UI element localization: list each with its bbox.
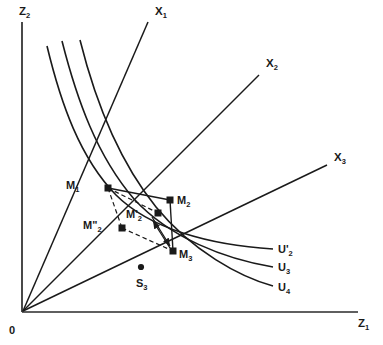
curve-label-u3: U3 — [278, 262, 290, 276]
origin-label: 0 — [9, 325, 15, 336]
figure-canvas: Z2 Z1 0 X1 X2 X3 U'2 U3 U4 M1 M2 M'2 M"2… — [0, 0, 383, 345]
x-axis-label: Z1 — [358, 318, 369, 332]
ray-label-x2: X2 — [266, 58, 278, 72]
point-label-s3: S3 — [136, 278, 148, 292]
curve-u2-prime — [47, 46, 273, 249]
marker-m2-prime — [155, 210, 162, 217]
curve-label-u4: U4 — [278, 282, 290, 296]
ray-label-x1: X1 — [155, 6, 167, 20]
point-label-m1: M1 — [66, 180, 79, 194]
connector-m1-m2 — [108, 188, 170, 200]
marker-m2-doubleprime — [119, 225, 126, 232]
y-axis-label: Z2 — [19, 6, 30, 20]
arrow-m2prime-m3-group — [152, 217, 170, 248]
marker-m3 — [170, 248, 177, 255]
curve-label-u2-prime: U'2 — [278, 244, 293, 258]
point-label-m2-doubleprime: M"2 — [83, 220, 102, 234]
marker-s3 — [138, 264, 144, 270]
indifference-curves — [47, 40, 273, 286]
point-label-m2: M2 — [177, 195, 190, 209]
marker-m1 — [105, 185, 112, 192]
point-label-m2-prime: M'2 — [126, 209, 142, 223]
axis-lines — [22, 22, 358, 312]
arrow-m2prime-to-m3 — [152, 217, 170, 246]
diagram-svg — [0, 0, 383, 345]
point-label-m3: M3 — [179, 249, 192, 263]
ray-x2-line — [23, 75, 259, 311]
marker-m2 — [167, 197, 174, 204]
ray-label-x3: X3 — [334, 152, 346, 166]
